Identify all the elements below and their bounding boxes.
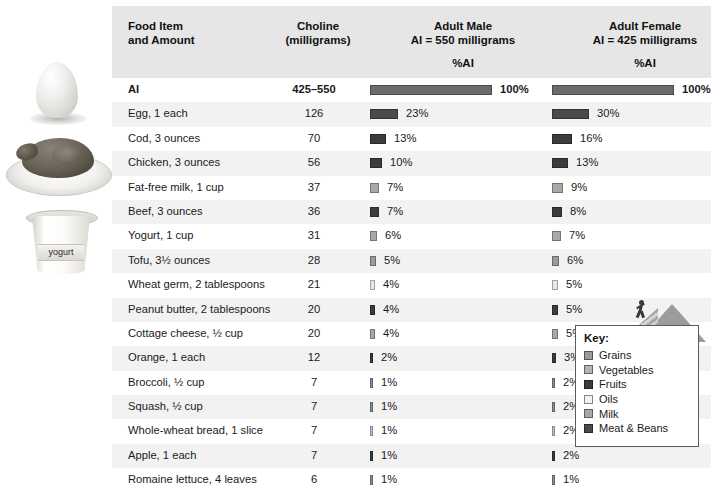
female-percent-label: 16% <box>580 132 602 144</box>
female-percent-bar <box>552 402 555 412</box>
food-photo-strip: yogurt <box>0 0 112 494</box>
yogurt-container-photo: yogurt <box>26 208 96 288</box>
cell-choline-mg: 37 <box>264 181 364 193</box>
legend-item: Fruits <box>584 377 690 392</box>
cell-female-percent-ai: 30% <box>552 102 716 126</box>
table-row: AI425–550100%100% <box>112 78 711 102</box>
male-percent-label: 1% <box>381 376 397 388</box>
cell-male-percent-ai: 1% <box>370 371 552 395</box>
cell-male-percent-ai: 1% <box>370 419 552 443</box>
table-row: Apple, 1 each71%2% <box>112 444 711 468</box>
cell-choline-mg: 7 <box>264 376 364 388</box>
cell-food-item: Whole-wheat bread, 1 slice <box>128 424 263 436</box>
cell-male-percent-ai: 6% <box>370 224 552 248</box>
female-percent-bar <box>552 207 562 217</box>
female-percent-bar <box>552 353 556 363</box>
male-percent-label: 100% <box>500 83 529 95</box>
cell-food-item: Romaine lettuce, 4 leaves <box>128 473 257 485</box>
cell-choline-mg: 425–550 <box>264 83 364 95</box>
legend-swatch-icon <box>584 380 593 389</box>
legend-label: Oils <box>599 393 618 405</box>
legend-label: Grains <box>599 349 631 361</box>
female-percent-bar <box>552 475 555 485</box>
cell-male-percent-ai: 1% <box>370 468 552 492</box>
column-header-adult-female: Adult Female AI = 425 milligrams <box>550 19 716 47</box>
subheader-female-percent-ai: %AI <box>550 56 716 70</box>
cell-food-item: Broccoli, ½ cup <box>128 376 204 388</box>
male-percent-bar <box>370 280 375 290</box>
cell-food-item: Chicken, 3 ounces <box>128 156 220 168</box>
column-header-food-item: Food Item and Amount <box>128 19 268 47</box>
cell-female-percent-ai: 2% <box>552 444 716 468</box>
cell-choline-mg: 20 <box>264 327 364 339</box>
male-percent-bar <box>370 305 375 315</box>
cell-choline-mg: 6 <box>264 473 364 485</box>
cell-food-item: Cod, 3 ounces <box>128 132 200 144</box>
male-percent-bar <box>370 85 492 95</box>
table-row: Cod, 3 ounces7013%16% <box>112 127 711 151</box>
column-header-adult-male-line2: AI = 550 milligrams <box>368 33 558 47</box>
female-percent-label: 6% <box>567 254 583 266</box>
female-percent-bar <box>552 256 559 266</box>
cell-choline-mg: 70 <box>264 132 364 144</box>
cell-choline-mg: 7 <box>264 424 364 436</box>
male-percent-bar <box>370 353 373 363</box>
legend-swatch-icon <box>584 424 593 433</box>
female-percent-label: 9% <box>571 181 587 193</box>
female-percent-label: 7% <box>569 229 585 241</box>
female-percent-bar <box>552 231 561 241</box>
male-percent-label: 1% <box>381 473 397 485</box>
cell-food-item: AI <box>128 83 139 95</box>
female-percent-label: 1% <box>563 473 579 485</box>
column-header-food-item-line1: Food Item <box>128 19 268 33</box>
female-percent-bar <box>552 109 589 119</box>
table-row: Peanut butter, 2 tablespoons204%5% <box>112 298 711 322</box>
male-percent-label: 1% <box>381 424 397 436</box>
female-percent-label: 8% <box>570 205 586 217</box>
cell-female-percent-ai: 5% <box>552 273 716 297</box>
cell-male-percent-ai: 1% <box>370 444 552 468</box>
table-row: Wheat germ, 2 tablespoons214%5% <box>112 273 711 297</box>
cell-food-item: Peanut butter, 2 tablespoons <box>128 303 270 315</box>
male-percent-label: 7% <box>387 205 403 217</box>
male-percent-label: 2% <box>381 351 397 363</box>
egg-photo <box>30 62 86 132</box>
legend-key-box: Key: GrainsVegetablesFruitsOilsMilkMeat … <box>575 325 699 447</box>
cell-female-percent-ai: 8% <box>552 200 716 224</box>
cell-female-percent-ai: 7% <box>552 224 716 248</box>
table-row: Fat-free milk, 1 cup377%9% <box>112 176 711 200</box>
cell-food-item: Orange, 1 each <box>128 351 205 363</box>
male-percent-bar <box>370 158 382 168</box>
female-percent-label: 5% <box>566 278 582 290</box>
female-percent-bar <box>552 85 674 95</box>
yogurt-label: yogurt <box>38 244 84 261</box>
cell-female-percent-ai: 6% <box>552 249 716 273</box>
female-percent-bar <box>552 305 558 315</box>
male-percent-bar <box>370 256 376 266</box>
cell-male-percent-ai: 4% <box>370 322 552 346</box>
cell-male-percent-ai: 2% <box>370 346 552 370</box>
cell-male-percent-ai: 4% <box>370 273 552 297</box>
male-percent-label: 10% <box>390 156 412 168</box>
cell-male-percent-ai: 4% <box>370 298 552 322</box>
cell-male-percent-ai: 7% <box>370 176 552 200</box>
cell-male-percent-ai: 7% <box>370 200 552 224</box>
legend-item: Grains <box>584 348 690 363</box>
male-percent-bar <box>370 402 373 412</box>
female-percent-bar <box>552 158 568 168</box>
legend-items: GrainsVegetablesFruitsOilsMilkMeat & Bea… <box>584 348 690 436</box>
table-row: Yogurt, 1 cup316%7% <box>112 224 711 248</box>
chicken-wing-highlight <box>52 146 82 164</box>
cell-food-item: Apple, 1 each <box>128 449 196 461</box>
legend-swatch-icon <box>584 365 593 374</box>
legend-label: Milk <box>599 408 619 420</box>
legend-swatch-icon <box>584 395 593 404</box>
male-percent-label: 7% <box>387 181 403 193</box>
female-percent-bar <box>552 378 555 388</box>
male-percent-bar <box>370 207 379 217</box>
cell-male-percent-ai: 100% <box>370 78 552 102</box>
female-percent-bar <box>552 426 555 436</box>
legend-item: Vegetables <box>584 363 690 378</box>
female-percent-label: 2% <box>563 449 579 461</box>
cell-choline-mg: 7 <box>264 449 364 461</box>
